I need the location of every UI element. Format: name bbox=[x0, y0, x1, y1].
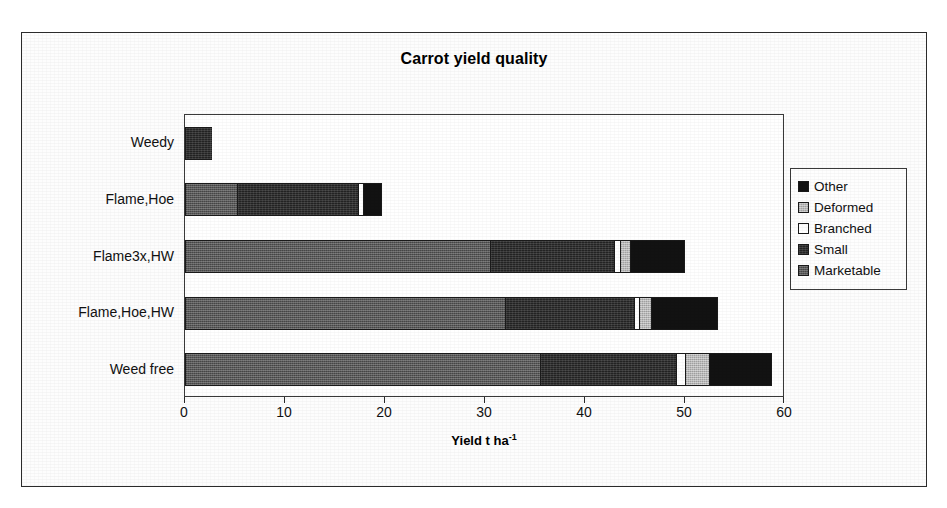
plot-area bbox=[184, 114, 784, 397]
legend-item[interactable]: Deformed bbox=[798, 197, 899, 218]
bar-segment-marketable[interactable] bbox=[185, 297, 505, 330]
x-axis-tick-label: 30 bbox=[476, 404, 492, 420]
bar-segment-marketable[interactable] bbox=[185, 240, 490, 273]
bar-segment-deformed[interactable] bbox=[685, 353, 709, 386]
legend-label: Deformed bbox=[814, 200, 873, 215]
y-axis-label-1: Flame,Hoe bbox=[106, 191, 174, 207]
bar-segment-other[interactable] bbox=[709, 353, 772, 386]
bar-row bbox=[185, 172, 783, 229]
x-axis-tick-label: 50 bbox=[676, 404, 692, 420]
chart-title: Carrot yield quality bbox=[22, 50, 926, 68]
x-axis-title-exponent: -1 bbox=[509, 432, 517, 442]
stacked-bar[interactable] bbox=[185, 353, 772, 386]
x-axis-title: Yield t ha-1 bbox=[184, 432, 784, 448]
x-axis-tick bbox=[184, 397, 185, 403]
other-swatch bbox=[798, 181, 809, 192]
x-axis-tick-label: 0 bbox=[180, 404, 188, 420]
x-axis-tick bbox=[384, 397, 385, 403]
bar-segment-other[interactable] bbox=[651, 297, 718, 330]
bar-segment-small[interactable] bbox=[185, 127, 212, 160]
bar-segment-small[interactable] bbox=[505, 297, 634, 330]
x-axis-tick bbox=[783, 397, 784, 403]
legend-label: Other bbox=[814, 179, 848, 194]
chart-legend: OtherDeformedBranchedSmallMarketable bbox=[790, 168, 907, 290]
x-axis-ticks bbox=[184, 397, 784, 403]
legend-label: Branched bbox=[814, 221, 872, 236]
x-axis-tick-labels: 0102030405060 bbox=[184, 404, 784, 424]
branched-swatch bbox=[798, 223, 809, 234]
bar-row bbox=[185, 115, 783, 172]
deformed-swatch bbox=[798, 202, 809, 213]
y-axis-label-4: Weed free bbox=[110, 361, 174, 377]
bar-segment-branched[interactable] bbox=[676, 353, 685, 386]
x-axis-title-text: Yield t ha bbox=[451, 433, 508, 448]
legend-label: Small bbox=[814, 242, 848, 257]
bar-segment-other[interactable] bbox=[630, 240, 685, 273]
bar-row bbox=[185, 341, 783, 398]
figure-frame: Carrot yield quality WeedyFlame,HoeFlame… bbox=[21, 32, 927, 487]
legend-item[interactable]: Branched bbox=[798, 218, 899, 239]
bar-segment-small[interactable] bbox=[540, 353, 676, 386]
x-axis-tick-label: 40 bbox=[576, 404, 592, 420]
bar-segment-small[interactable] bbox=[490, 240, 614, 273]
stacked-bar[interactable] bbox=[185, 240, 685, 273]
legend-item[interactable]: Other bbox=[798, 176, 899, 197]
stacked-bar[interactable] bbox=[185, 127, 212, 160]
y-axis-label-0: Weedy bbox=[131, 134, 174, 150]
x-axis-tick-label: 60 bbox=[776, 404, 792, 420]
bar-row bbox=[185, 285, 783, 342]
marketable-swatch bbox=[798, 265, 809, 276]
x-axis-tick-label: 20 bbox=[376, 404, 392, 420]
bar-segment-marketable[interactable] bbox=[185, 353, 540, 386]
x-axis-tick bbox=[684, 397, 685, 403]
y-axis-label-3: Flame,Hoe,HW bbox=[78, 304, 174, 320]
x-axis-tick-label: 10 bbox=[276, 404, 292, 420]
small-swatch bbox=[798, 244, 809, 255]
stacked-bar[interactable] bbox=[185, 183, 382, 216]
bar-segment-deformed[interactable] bbox=[639, 297, 651, 330]
legend-label: Marketable bbox=[814, 263, 881, 278]
x-axis-tick bbox=[484, 397, 485, 403]
bar-segment-deformed[interactable] bbox=[620, 240, 630, 273]
y-axis-category-labels: WeedyFlame,HoeFlame3x,HWFlame,Hoe,HWWeed… bbox=[42, 114, 180, 397]
bar-row bbox=[185, 228, 783, 285]
stacked-bar[interactable] bbox=[185, 297, 718, 330]
bar-segment-marketable[interactable] bbox=[185, 183, 237, 216]
x-axis-tick bbox=[584, 397, 585, 403]
legend-item[interactable]: Small bbox=[798, 239, 899, 260]
legend-item[interactable]: Marketable bbox=[798, 260, 899, 281]
bar-segment-small[interactable] bbox=[237, 183, 358, 216]
y-axis-label-2: Flame3x,HW bbox=[93, 248, 174, 264]
bar-segment-other[interactable] bbox=[363, 183, 382, 216]
x-axis-tick bbox=[284, 397, 285, 403]
